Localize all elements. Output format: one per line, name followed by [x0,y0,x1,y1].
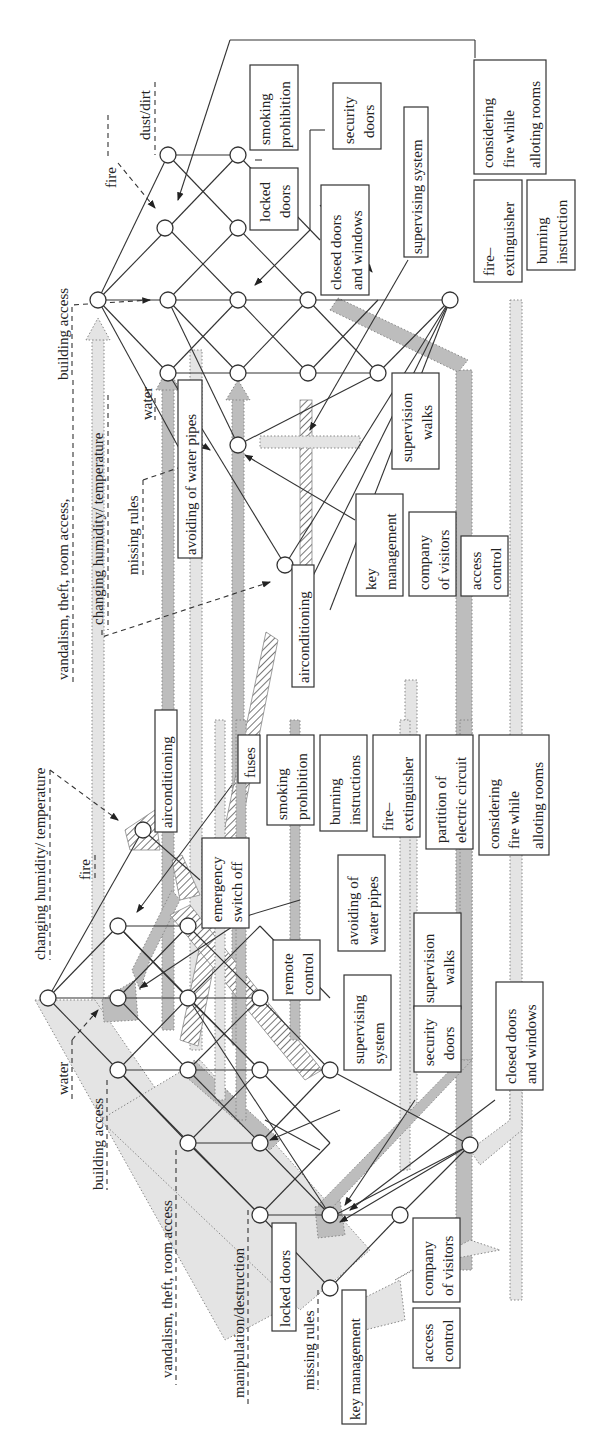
label-vandal-bottom: vandalism, theft, room access [159,1200,175,1378]
svg-text:of visitors: of visitors [440,1235,456,1296]
svg-text:water pipes: water pipes [365,876,381,945]
box-bottom-airconditioning: airconditioning [155,710,177,832]
box-top-supervising-system: supervising system [404,107,428,257]
svg-text:control: control [488,548,504,591]
box-bottom-fire-extinguisher: fire– extinguisher [373,735,420,837]
svg-text:instructions: instructions [347,755,363,825]
box-bottom-avoiding: avoiding of water pipes [338,855,385,951]
box-top-key-management: key management [356,494,403,596]
box-top-avoiding: avoiding of water pipes [178,380,202,558]
svg-text:emergency: emergency [209,856,225,922]
svg-text:and windows: and windows [523,1004,539,1084]
box-bottom-access-control: access control [413,1308,460,1368]
svg-text:locked: locked [257,182,273,222]
svg-text:supervision: supervision [421,933,437,1003]
svg-text:of visitors: of visitors [436,529,452,590]
svg-text:airconditioning: airconditioning [296,591,312,683]
svg-text:key management: key management [347,1317,363,1420]
box-top-security-doors: security doors [333,83,381,149]
svg-text:locked doors: locked doors [277,1250,293,1327]
box-top-burning: burning instruction [527,180,575,270]
svg-text:doors: doors [361,105,377,138]
svg-text:company: company [416,535,432,590]
svg-text:prohibition: prohibition [294,753,310,820]
svg-text:avoiding of: avoiding of [345,876,361,945]
label-dust: dust/dirt [137,89,153,140]
svg-text:switch off: switch off [229,862,245,922]
svg-text:airconditioning: airconditioning [159,736,175,828]
label-vandal-top: vandalism, theft, room access, [55,498,71,680]
svg-text:extinguisher: extinguisher [501,202,517,276]
svg-text:instruction: instruction [554,199,570,264]
svg-text:alloting rooms: alloting rooms [530,762,546,849]
box-top-locked: locked doors [250,168,298,230]
svg-text:supervising system: supervising system [409,139,425,254]
box-bottom-remote: remote control [273,940,320,1000]
box-top-considering: considering fire while alloting rooms [474,60,546,174]
box-bottom-fuses: fuses [238,735,260,783]
svg-text:security: security [421,1018,437,1066]
svg-text:burning: burning [327,778,343,825]
svg-text:management: management [383,513,399,590]
svg-text:remote: remote [280,953,296,995]
label-fire-top: fire [103,167,119,188]
svg-text:and windows: and windows [349,210,365,290]
label-fire-bottom: fire [77,859,93,880]
label-water-top: water [139,387,155,420]
box-bottom-company: company of visitors [413,1218,460,1302]
svg-text:control: control [440,1320,456,1363]
svg-text:alloting rooms: alloting rooms [527,81,543,168]
label-missing-top: missing rules [125,495,141,575]
svg-text:control: control [300,953,316,996]
svg-text:system: system [371,1022,387,1064]
label-humidity-top: changing humidity/ temperature [90,432,106,625]
svg-text:company: company [420,1241,436,1296]
svg-text:smoking: smoking [257,93,273,145]
svg-text:walks: walks [441,950,457,985]
svg-text:access: access [468,552,484,590]
svg-text:walks: walks [419,405,435,440]
box-bottom-locked: locked doors [272,1223,296,1331]
svg-text:partition of: partition of [433,776,449,843]
box-top-supervision-walks: supervision walks [392,373,439,469]
box-bottom-emergency: emergency switch off [202,838,249,928]
box-bottom-partition: partition of electric circuit [426,735,473,849]
svg-text:doors: doors [441,1027,457,1060]
svg-text:fire while: fire while [506,791,522,849]
svg-text:electric circuit: electric circuit [453,756,469,843]
svg-text:considering: considering [480,98,496,168]
box-bottom-supervision-walks: supervision walks [414,913,461,1009]
svg-text:closed doors: closed doors [328,214,344,290]
label-building-bottom: building access [90,1098,106,1190]
label-building-top-2: building access [55,288,71,380]
svg-text:prohibition: prohibition [277,81,293,148]
svg-text:access: access [420,1324,436,1362]
svg-text:supervising: supervising [351,994,367,1064]
label-manip-bottom: manipulation/destruction [231,1248,247,1398]
box-top-fire-extinguisher: fire– extinguisher [474,180,522,282]
svg-text:closed doors: closed doors [503,1008,519,1084]
svg-text:considering: considering [486,779,502,849]
svg-text:fire–: fire– [380,802,396,831]
label-humidity-bottom: changing humidity/ temperature [32,767,48,960]
svg-text:fire–: fire– [481,247,497,276]
svg-text:supervision: supervision [399,392,415,462]
svg-text:doors: doors [277,185,293,218]
box-top-company: company of visitors [409,512,456,596]
box-bottom-considering: considering fire while alloting rooms [479,735,549,855]
box-top-airconditioning: airconditioning [292,565,314,687]
svg-text:key: key [363,568,379,590]
box-bottom-burning: burning instructions [320,735,367,831]
box-top-access-control: access control [461,536,508,596]
svg-text:security: security [341,96,357,144]
label-missing-bottom: missing rules [301,1310,317,1390]
box-bottom-security-doors: security doors [414,1006,461,1072]
box-top-smoking: smoking prohibition [250,65,298,150]
svg-text:extinguisher: extinguisher [400,757,416,831]
box-bottom-supervising-system: supervising system [344,975,391,1070]
label-water-bottom: water [55,1062,71,1095]
box-bottom-smoking: smoking prohibition [267,735,314,825]
svg-text:avoiding of water pipes: avoiding of water pipes [183,414,199,555]
box-bottom-key-management: key management [342,1290,366,1424]
svg-text:smoking: smoking [274,768,290,820]
